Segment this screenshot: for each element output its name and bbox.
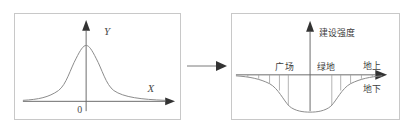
y-axis-label: Y [104, 25, 111, 37]
connector-arrowhead-icon [216, 61, 227, 71]
intensity-axis-label: 建设强度 [319, 27, 355, 38]
right-panel: 建设强度 广场 绿地 地上 地下 [231, 13, 400, 120]
bell-curve-path [23, 45, 165, 100]
figure-container: Y X 0 [0, 0, 412, 133]
x-axis-arrowhead-icon [165, 97, 175, 105]
above-ground-label: 地上 [363, 60, 381, 71]
plaza-zone-label: 广场 [275, 61, 293, 72]
y-axis-arrowhead-icon [82, 20, 90, 31]
inverted-curve-path [236, 76, 382, 112]
left-panel: Y X 0 [14, 13, 181, 120]
left-panel-chart: Y X 0 [15, 14, 180, 119]
origin-label: 0 [77, 104, 82, 115]
green-space-zone-label: 绿地 [317, 61, 335, 72]
intensity-axis-arrowhead-icon [306, 21, 314, 32]
ground-axis-arrowhead-icon [375, 70, 387, 80]
x-axis-label: X [146, 82, 154, 94]
transition-arrow [185, 56, 229, 76]
below-ground-label: 地下 [363, 83, 381, 94]
right-panel-chart: 建设强度 广场 绿地 地上 地下 [232, 14, 399, 119]
